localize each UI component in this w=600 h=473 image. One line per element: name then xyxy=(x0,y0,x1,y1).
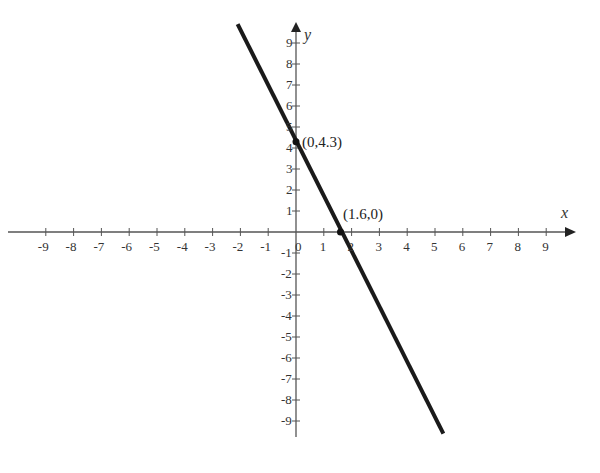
coordinate-plane xyxy=(0,0,600,473)
intercept-point xyxy=(337,229,344,236)
y-tick-label: -1 xyxy=(281,246,292,259)
y-tick-label: -2 xyxy=(281,267,292,280)
x-tick-label: 2 xyxy=(348,240,355,253)
x-tick-label: -6 xyxy=(121,240,132,253)
x-intercept-label: (1.6,0) xyxy=(343,207,383,222)
x-tick-label: 7 xyxy=(487,240,494,253)
x-tick-label: 4 xyxy=(403,240,410,253)
y-tick-label: -8 xyxy=(281,393,292,406)
x-tick-label: -7 xyxy=(93,240,104,253)
y-tick-label: 3 xyxy=(286,162,293,175)
y-tick-label: 6 xyxy=(286,99,293,112)
x-tick-label: -2 xyxy=(232,240,243,253)
x-tick-label: 8 xyxy=(514,240,521,253)
y-tick-label: -6 xyxy=(281,351,292,364)
y-tick-label: -4 xyxy=(281,309,292,322)
y-axis-arrow-icon xyxy=(291,22,301,32)
y-axis-label: y xyxy=(304,27,311,43)
y-tick-label: 9 xyxy=(286,36,293,49)
x-tick-label: 1 xyxy=(320,240,327,253)
x-axis-label: x xyxy=(561,205,568,221)
x-tick-label: 6 xyxy=(459,240,466,253)
x-tick-label: -8 xyxy=(66,240,77,253)
x-tick-label: 9 xyxy=(542,240,549,253)
y-tick-label: -7 xyxy=(281,372,292,385)
y-tick-label: 4 xyxy=(286,141,293,154)
x-axis-arrow-icon xyxy=(565,227,576,237)
y-tick-label: 5 xyxy=(286,120,293,133)
y-tick-label: 7 xyxy=(286,78,293,91)
x-tick-label: 5 xyxy=(431,240,438,253)
y-tick-label: 1 xyxy=(286,204,293,217)
y-tick-label: 2 xyxy=(286,183,293,196)
y-intercept-label: (0,4.3) xyxy=(302,135,342,150)
x-tick-label: -4 xyxy=(177,240,188,253)
x-tick-label: -1 xyxy=(260,240,271,253)
x-tick-label: -3 xyxy=(205,240,216,253)
x-tick-label: 3 xyxy=(375,240,382,253)
x-tick-label: -9 xyxy=(38,240,49,253)
plot-canvas xyxy=(0,0,600,473)
y-tick-label: -9 xyxy=(281,414,292,427)
intercept-point xyxy=(293,138,300,145)
y-tick-label: 8 xyxy=(286,57,293,70)
x-tick-label: -5 xyxy=(149,240,160,253)
y-tick-label: -3 xyxy=(281,288,292,301)
y-tick-label: -5 xyxy=(281,330,292,343)
x-tick-label: 0 xyxy=(295,240,302,253)
